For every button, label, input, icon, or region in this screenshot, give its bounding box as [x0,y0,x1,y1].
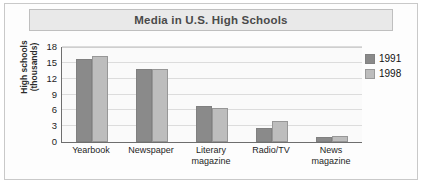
y-tick-label: 18 [33,42,57,52]
bar-group [134,47,170,142]
plot-area [61,47,362,143]
y-tick-label: 12 [33,74,57,84]
x-tick-label-line: News [320,145,343,155]
legend-swatch-icon [365,69,375,79]
chart-figure: Media in U.S. High Schools High schools … [4,3,418,180]
chart-legend: 19911998 [365,52,417,82]
legend-item-1998[interactable]: 1998 [365,67,417,80]
bar-1998-radio-tv [272,121,288,142]
bar-1998-newspaper [152,69,168,142]
legend-label: 1991 [379,53,401,64]
x-tick-label: Literarymagazine [181,145,241,167]
x-axis-tick-labels: YearbookNewspaperLiterarymagazineRadio/T… [61,145,363,175]
y-tick-label: 15 [33,58,57,68]
legend-item-1991[interactable]: 1991 [365,52,417,65]
bar-1991-news-magazine [316,137,332,142]
y-tick-label: 6 [33,105,57,115]
bar-1998-yearbook [92,56,108,142]
bar-group [194,47,230,142]
y-tick-label: 9 [33,90,57,100]
y-tick-label: 3 [33,121,57,131]
x-tick-label-line: Newspaper [128,145,174,155]
x-tick-label: Radio/TV [241,145,301,156]
x-tick-label-line: magazine [311,156,350,166]
y-axis-tick-labels: 1815129630 [33,42,57,142]
bar-1991-newspaper [136,69,152,142]
x-tick-label-line: Radio/TV [252,145,290,155]
bar-1991-literary-magazine [196,106,212,142]
bar-1998-literary-magazine [212,108,228,142]
bar-1991-yearbook [76,59,92,142]
x-tick-label-line: magazine [191,156,230,166]
y-axis-label-line1: High schools [19,40,29,93]
bar-1991-radio-tv [256,128,272,142]
legend-label: 1998 [379,68,401,79]
bar-1998-news-magazine [332,136,348,142]
x-tick-label: Newsmagazine [301,145,361,167]
x-tick-label-line: Literary [196,145,226,155]
page-title: Media in U.S. High Schools [134,14,287,26]
x-tick-label: Newspaper [121,145,181,156]
legend-swatch-icon [365,54,375,64]
y-tick-label: 0 [33,137,57,147]
chart-title-banner: Media in U.S. High Schools [29,9,393,31]
bar-group [74,47,110,142]
x-tick-label: Yearbook [61,145,121,156]
x-tick-label-line: Yearbook [72,145,110,155]
bar-group [254,47,290,142]
bar-group [314,47,350,142]
